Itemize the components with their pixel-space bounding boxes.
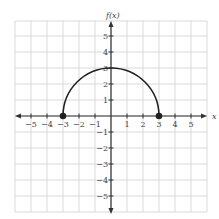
- x-tick-label: 4: [172, 120, 177, 129]
- x-axis-label: x: [212, 112, 217, 121]
- x-axis-right-arrow-icon: [201, 114, 207, 119]
- y-tick-label: 5: [103, 32, 108, 41]
- y-tick-label: 4: [103, 48, 108, 57]
- x-tick-label: 3: [156, 120, 161, 129]
- y-tick-label: −3: [96, 160, 108, 169]
- x-tick-label: −3: [57, 120, 69, 129]
- y-axis-up-arrow-icon: [109, 21, 114, 27]
- x-tick-label: 1: [124, 120, 129, 129]
- axes: [15, 21, 207, 214]
- x-axis-left-arrow-icon: [15, 114, 21, 119]
- y-tick-label: −2: [96, 144, 108, 153]
- y-tick-label: 1: [103, 96, 108, 105]
- y-tick-label: −5: [96, 192, 108, 201]
- closed-endpoint-dot: [156, 113, 163, 120]
- function-graph: −5−4−3−2−11234554321−1−2−3−4−5 x f(x): [0, 0, 219, 219]
- x-tick-label: 2: [140, 120, 145, 129]
- x-tick-label: −2: [73, 120, 85, 129]
- x-tick-label: −4: [41, 120, 53, 129]
- y-tick-label: 2: [103, 80, 108, 89]
- y-tick-label: −1: [96, 128, 108, 137]
- x-tick-label: −5: [25, 120, 37, 129]
- x-tick-label: 5: [188, 120, 193, 129]
- closed-endpoint-dot: [60, 113, 67, 120]
- y-tick-label: −4: [96, 176, 108, 185]
- y-axis-label: f(x): [105, 11, 120, 20]
- y-axis-down-arrow-icon: [109, 208, 114, 214]
